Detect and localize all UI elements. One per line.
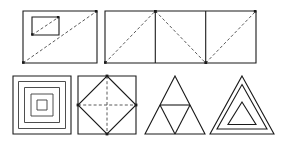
figure-4-vertex-dot-top (106, 75, 109, 78)
figure-1-inner-vertex-dot-top-right (57, 16, 59, 18)
figure-2-vertex-dot-bottom-mid-right (204, 61, 207, 64)
figure-2-vertex-dot-top-right (254, 10, 257, 13)
figure-2-vertex-dot-bottom-left (104, 61, 107, 64)
figure-1-inner-vertex-dot-bottom-left (31, 33, 33, 35)
figure-4-vertex-dot-bottom (106, 133, 109, 136)
figure-1-vertex-dot-top-right (95, 10, 98, 13)
plate-canvas (0, 0, 283, 148)
figure-4-vertex-dot-left (77, 104, 80, 107)
plate-background (0, 0, 283, 148)
figure-4-vertex-dot-right (135, 104, 138, 107)
figure-1-vertex-dot-bottom-left (22, 61, 25, 64)
figure-2-vertex-dot-top-mid-left (154, 10, 157, 13)
geometric-figures-plate (0, 0, 283, 148)
